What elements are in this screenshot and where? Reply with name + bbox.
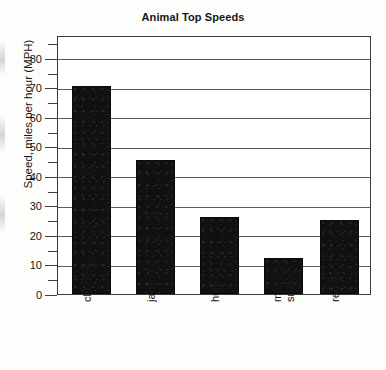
y-tick-minor-45 [48,162,57,163]
y-tick-label-80: 80 [0,53,42,65]
x-label-human: human [210,268,222,302]
chart-title: Animal Top Speeds [0,11,386,23]
y-tick-label-40: 40 [0,171,42,183]
y-tick-minor-5 [48,280,57,281]
x-label-cheetah: cheetah [82,263,94,302]
y-tick-minor-15 [48,251,57,252]
y-tick-major-50 [45,147,57,148]
y-tick-major-20 [45,236,57,237]
x-label-snake: snake [285,273,297,302]
y-tick-minor-75 [48,74,57,75]
plot-area [57,36,371,295]
y-tick-major-10 [45,265,57,266]
y-tick-major-40 [45,177,57,178]
y-tick-major-70 [45,88,57,89]
y-tick-label-30: 30 [0,200,42,212]
y-tick-minor-55 [48,133,57,134]
x-label-jackrabbit: jackrabbit [146,255,158,302]
x-label-red-fox: red fox [330,268,342,302]
x-label-mamba: mamba [272,265,284,302]
y-tick-minor-85 [48,44,57,45]
y-tick-label-10: 10 [0,259,42,271]
y-tick-major-0 [45,295,57,296]
y-tick-label-60: 60 [0,112,42,124]
y-tick-major-30 [45,206,57,207]
y-tick-major-60 [45,118,57,119]
y-tick-label-70: 70 [0,82,42,94]
y-tick-minor-35 [48,192,57,193]
y-tick-label-0: 0 [0,289,42,301]
y-tick-label-50: 50 [0,141,42,153]
gridline-80 [58,59,370,60]
y-tick-minor-65 [48,103,57,104]
y-tick-label-20: 20 [0,230,42,242]
bar-chart-figure: Animal Top Speeds Speed, miles per hour … [0,0,386,370]
y-tick-major-80 [45,59,57,60]
scan-artifact-edge [0,40,5,290]
y-tick-minor-25 [48,221,57,222]
